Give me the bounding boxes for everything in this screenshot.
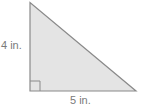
height-label: 4 in. (1, 39, 22, 51)
right-triangle (30, 3, 136, 92)
triangle-diagram: 4 in. 5 in. (0, 0, 143, 106)
base-label: 5 in. (70, 94, 91, 106)
